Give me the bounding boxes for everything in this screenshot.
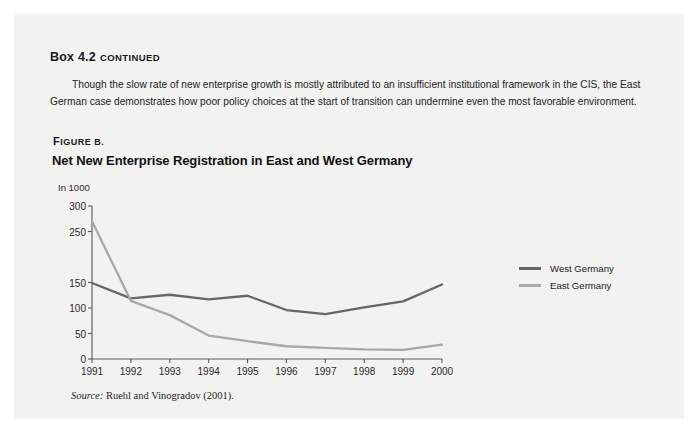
x-axis-label: 1992: [111, 366, 151, 377]
x-axis-label: 1997: [305, 366, 345, 377]
x-axis-label: 2000: [422, 366, 462, 377]
x-axis-label: 1998: [344, 366, 384, 377]
body-paragraph: Though the slow rate of new enterprise g…: [50, 76, 650, 110]
legend-label: East Germany: [550, 280, 611, 291]
chart-svg: [50, 182, 470, 377]
x-axis-label: 1995: [228, 366, 268, 377]
x-axis-label: 1994: [189, 366, 229, 377]
y-axis-label: 250: [56, 226, 86, 237]
box-continued-label: CONTINUED: [100, 52, 160, 63]
figure-label: FIGURE B.: [53, 135, 104, 147]
y-axis-label: 50: [56, 328, 86, 339]
plot-area: 3002501501005001991199219931994199519961…: [50, 182, 470, 377]
figure-label-text: FIGURE B.: [53, 137, 104, 147]
x-axis-label: 1996: [266, 366, 306, 377]
figure-title: Net New Enterprise Registration in East …: [52, 153, 412, 168]
series-line-east-germany: [92, 221, 442, 350]
source-note: Source: Ruehl and Vinogradov (2001).: [71, 390, 234, 401]
legend-color-swatch: [519, 267, 541, 269]
chart-legend: West GermanyEast Germany: [519, 260, 614, 294]
legend-label: West Germany: [550, 263, 614, 274]
x-axis-label: 1991: [72, 366, 112, 377]
series-line-west-germany: [92, 283, 442, 314]
box-header: Box 4.2CONTINUED: [50, 50, 160, 64]
box-page: Box 4.2CONTINUED Though the slow rate of…: [14, 14, 684, 419]
y-axis-label: 100: [56, 303, 86, 314]
axis-frame: [92, 206, 442, 359]
y-axis-label: 300: [56, 201, 86, 212]
legend-color-swatch: [519, 284, 541, 286]
x-axis-label: 1993: [150, 366, 190, 377]
legend-item: West Germany: [519, 260, 614, 277]
y-axis-label: 0: [56, 354, 86, 365]
x-axis-label: 1999: [383, 366, 423, 377]
box-number: Box 4.2: [50, 50, 96, 64]
source-text: Ruehl and Vinogradov (2001).: [106, 390, 234, 401]
legend-item: East Germany: [519, 277, 614, 294]
y-axis-label: 150: [56, 277, 86, 288]
paragraph-line-2: demonstrates how poor policy choices at …: [114, 96, 637, 107]
line-chart: In 1000 30025015010050019911992199319941…: [50, 182, 470, 377]
source-label: Source:: [71, 390, 103, 401]
